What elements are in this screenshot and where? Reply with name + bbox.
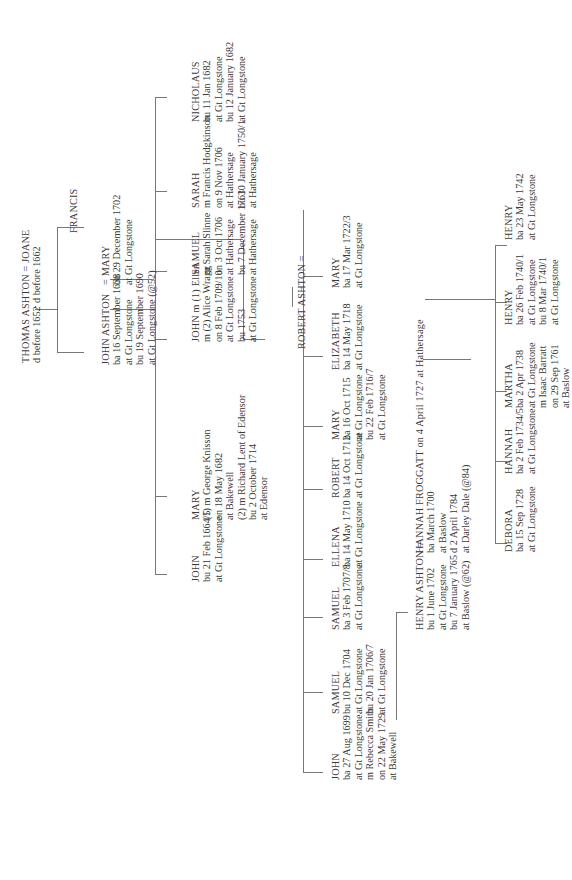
detail: bu 20 Jan 1706/7	[364, 644, 375, 714]
family-tree: THOMAS ASHTON = JOANE d before 1652 d be…	[0, 0, 572, 880]
connector-line	[155, 496, 167, 497]
person-sarah: SARAH m Francis Hodgkinson on 9 Nov 1706…	[190, 115, 258, 208]
person-samuel-1704: SAMUEL bu 10 Dec 1704 at Gt Longstone bu…	[330, 644, 387, 714]
person-name: SAMUEL	[330, 644, 341, 714]
detail: on 18 May 1682	[213, 395, 224, 520]
detail: at Gt Longstone	[526, 342, 537, 408]
connector-line	[303, 692, 323, 693]
detail: at Darley Dale (@84)	[460, 319, 471, 553]
detail: bu 1 June 1702	[425, 553, 436, 630]
connector-line	[57, 352, 84, 353]
detail: (1) m George Knisson	[201, 395, 212, 520]
person-john-1664: JOHN bu 21 Feb 1664/5 at Gt Longstone	[190, 510, 224, 582]
detail: at Gt Longstone	[353, 501, 364, 568]
detail: at Gt Longstone	[353, 432, 364, 498]
wife-detail: d before 1662	[31, 246, 42, 303]
connector-line	[303, 489, 323, 490]
connector-line	[57, 228, 58, 353]
detail: ba 16 September 1638	[111, 285, 122, 365]
detail: at Gt Longstone	[213, 510, 224, 582]
connector-line	[292, 287, 293, 307]
person-name: MARY	[330, 368, 341, 440]
detail: bu 10 Dec 1704	[341, 644, 352, 714]
detail: at Gt Longstone	[376, 368, 387, 440]
detail: ba 2 Feb 1734/5	[514, 408, 525, 474]
connector-line	[155, 191, 167, 192]
detail: m Isaac Barratt	[537, 342, 548, 408]
detail: ba 23 May 1742	[514, 174, 525, 241]
detail: ba 14 May 1710	[341, 501, 352, 568]
connector-line	[425, 299, 495, 300]
person-name: ROBERT ASHTON =	[296, 255, 307, 349]
detail: m Francis Hodgkinson	[201, 115, 212, 208]
person-name: JOHN	[190, 510, 201, 582]
connector-line	[495, 245, 507, 246]
detail: on 9 Nov 1706	[213, 115, 224, 208]
connector-line	[303, 356, 323, 357]
detail: on 29 Sep 1761	[549, 342, 560, 408]
person-john-ashton: JOHN ASHTON ba 16 September 1638 at Gt L…	[100, 195, 157, 365]
detail: at Gt Longstone	[526, 174, 537, 241]
person-name: MARY	[330, 215, 341, 288]
person-ellena: ELLENA ba 14 May 1710 at Gt Longstone	[330, 501, 364, 568]
person-name: FRANCIS	[68, 189, 79, 233]
detail: ba 2 Apr 1738	[514, 342, 525, 408]
detail: at Gt Longstone	[437, 553, 448, 630]
detail: ba 16 Oct 1715	[341, 368, 352, 440]
person-name: HENRY	[503, 174, 514, 241]
detail: ba 3 Feb 1707/8	[341, 564, 352, 630]
detail: (2) m Richard Lent of Edensor	[236, 395, 247, 520]
detail: at Gt Longstone	[213, 42, 224, 122]
person-robert: ROBERT ba 14 Oct 1712 at Gt Longstone	[330, 432, 364, 498]
husband-detail: d before 1652	[31, 303, 42, 363]
detail: at Gt Longstone	[353, 644, 364, 714]
person-mary-1715: MARY ba 16 Oct 1715 at Gt Longstone bu 2…	[330, 368, 387, 440]
detail: at Gt Longstone	[353, 708, 364, 780]
connector-line	[303, 617, 323, 618]
detail: at Gt Longstone	[247, 264, 258, 342]
detail: ba March 1700	[425, 319, 436, 553]
detail: m Rebecca Smith	[364, 708, 375, 780]
detail: ba 14 Oct 1712	[341, 432, 352, 498]
detail: bu 22 Feb 1716/7	[364, 368, 375, 440]
person-nicholaus: NICHOLAUS bu 11 Jan 1682 at Gt Longstone…	[190, 42, 247, 122]
person-robert-ashton: ROBERT ASHTON =	[296, 255, 307, 349]
person-name: ELIZABETH	[330, 304, 341, 371]
person-name: JOHN m (1) Ellen	[190, 264, 201, 342]
connector-line	[155, 97, 167, 98]
person-name: SAMUEL	[330, 564, 341, 630]
detail: m (2) Alice Wragg	[201, 264, 212, 342]
detail: at Gt Longstone	[353, 368, 364, 440]
person-name: NICHOLAUS	[190, 42, 201, 122]
detail: bu 29 December 1702	[111, 195, 122, 285]
detail: bu 2 October 1714	[247, 395, 258, 520]
detail: at Gt Longstone	[236, 42, 247, 122]
detail: bu 11 Jan 1682	[201, 42, 212, 122]
person-thomas-joane: THOMAS ASHTON = JOANE d before 1652 d be…	[20, 230, 43, 363]
spouse-name: HANNAH FROGGATT on 4 April 1727 at Hathe…	[414, 319, 425, 553]
detail: at Bakewell	[387, 708, 398, 780]
person-name: DEBORA	[503, 486, 514, 552]
detail: ba 14 May 1718	[341, 304, 352, 371]
detail: at Gt Longstone	[353, 564, 364, 630]
person-mary-1722: MARY ba 17 Mar 1722/3 at Gt Longstone	[330, 215, 364, 288]
detail: at Bakewell	[224, 395, 235, 520]
person-henry-1740: HENRY ba 26 Feb 1740/1 at Gt Longstone b…	[503, 254, 560, 325]
person-john-wragg: JOHN m (1) Ellen m (2) Alice Wragg on 8 …	[190, 264, 258, 342]
spouse-name: MARY	[100, 245, 111, 276]
detail: ba 26 Feb 1740/1	[514, 254, 525, 325]
person-francis: FRANCIS	[68, 189, 79, 233]
detail: at Baslow	[437, 319, 448, 553]
connector-line	[495, 246, 496, 544]
detail: at Baslow (@62)	[460, 553, 471, 630]
person-name: HENRY	[503, 254, 514, 325]
person-name: HENRY ASHTON =	[414, 553, 425, 630]
detail: at Baslow	[560, 342, 571, 408]
person-elizabeth: ELIZABETH ba 14 May 1718 at Gt Longstone	[330, 304, 364, 371]
detail: at Gt Longstone	[123, 195, 134, 285]
connector-line	[155, 574, 167, 575]
person-samuel-1707: SAMUEL ba 3 Feb 1707/8 at Gt Longstone	[330, 564, 364, 630]
couple-name: THOMAS ASHTON = JOANE	[20, 230, 31, 363]
detail: at Gt Longstone	[526, 254, 537, 325]
detail: ba 27 Aug 1699	[341, 708, 352, 780]
